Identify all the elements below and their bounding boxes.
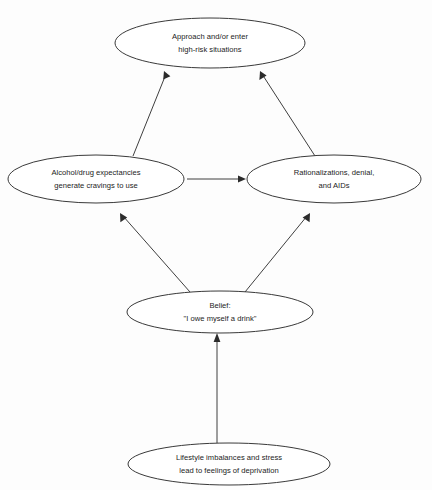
edge-line [245,216,307,292]
node-high-risk-line1: Approach and/or enter [172,32,248,41]
node-high-risk-line2: high-risk situations [178,45,241,54]
node-rationalizations-line1: Rationalizations, denial, [294,168,375,177]
arrowhead-icon [120,213,127,222]
node-lifestyle-line1: Lifestyle imbalances and stress [176,453,282,462]
edge-rationalizations-to-high-risk [259,71,315,156]
arrowhead-icon [214,333,221,342]
node-expectancies[interactable]: Alcohol/drug expectancies generate cravi… [8,155,184,203]
diagram-canvas: Approach and/or enter high-risk situatio… [0,0,432,490]
edge-belief-to-expectancies [120,213,190,292]
node-belief-line1: Belief: [209,301,230,310]
node-expectancies-line2: generate cravings to use [54,181,138,190]
node-shape-ellipse[interactable] [115,18,305,68]
node-shape-ellipse[interactable] [128,443,330,485]
node-rationalizations[interactable]: Rationalizations, denial, and AIDs [247,155,421,203]
node-belief-line2: "I owe myself a drink" [184,314,257,323]
node-high-risk[interactable]: Approach and/or enter high-risk situatio… [115,18,305,68]
edge-expectancies-to-rationalizations [187,176,246,183]
edge-line [262,74,315,156]
node-lifestyle[interactable]: Lifestyle imbalances and stress lead to … [128,443,330,485]
flowchart-svg: Approach and/or enter high-risk situatio… [0,0,432,490]
node-lifestyle-line2: lead to feelings of deprivation [179,466,278,475]
edge-expectancies-to-high-risk [133,71,170,156]
node-shape-ellipse[interactable] [127,291,313,333]
node-shape-ellipse[interactable] [8,155,184,203]
edge-lifestyle-to-belief [214,333,221,443]
node-shape-ellipse[interactable] [247,155,421,203]
edge-line [123,216,190,292]
node-expectancies-line1: Alcohol/drug expectancies [51,168,140,177]
edge-line [133,74,166,156]
edge-belief-to-rationalizations [245,213,310,292]
node-rationalizations-line2: and AIDs [319,181,350,190]
node-belief[interactable]: Belief: "I owe myself a drink" [127,291,313,333]
arrowhead-icon [163,71,170,79]
arrowhead-icon [238,176,246,183]
